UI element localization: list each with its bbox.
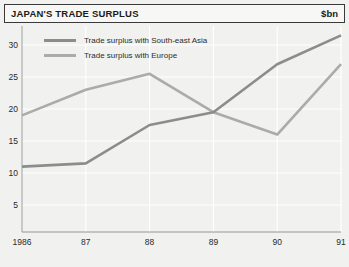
y-axis-tick-label: 5 [13, 200, 18, 210]
page-title: JAPAN'S TRADE SURPLUS [11, 8, 139, 19]
x-axis-tick-label: 90 [272, 237, 282, 247]
chart-card: JAPAN'S TRADE SURPLUS $bn 51015202530 19… [0, 0, 349, 267]
y-axis-tick-label: 10 [9, 168, 19, 178]
legend-swatch-europe [44, 54, 76, 57]
y-axis-tick-label: 25 [9, 72, 19, 82]
legend-label: Trade surplus with Europe [84, 51, 177, 60]
legend-item: Trade surplus with South-east Asia [44, 34, 207, 47]
legend-label: Trade surplus with South-east Asia [84, 36, 207, 45]
x-axis-tick-label: 89 [209, 237, 219, 247]
y-axis-tick-labels: 51015202530 [9, 40, 19, 210]
chart-legend: Trade surplus with South-east Asia Trade… [44, 34, 207, 64]
series-line-europe [22, 64, 341, 134]
x-axis-tick-label: 87 [81, 237, 91, 247]
x-axis-tick-label: 1986 [13, 237, 32, 247]
legend-item: Trade surplus with Europe [44, 49, 207, 62]
gridlines [22, 45, 341, 205]
x-axis-tick-labels: 19868788899091 [13, 237, 346, 247]
x-axis-tick-label: 91 [336, 237, 346, 247]
unit-label: $bn [321, 8, 338, 19]
legend-swatch-southeast-asia [44, 39, 76, 42]
y-axis-tick-label: 15 [9, 136, 19, 146]
y-axis-tick-label: 20 [9, 104, 19, 114]
chart-header: JAPAN'S TRADE SURPLUS $bn [4, 4, 345, 23]
x-axis-tick-label: 88 [145, 237, 155, 247]
y-axis-tick-label: 30 [9, 40, 19, 50]
